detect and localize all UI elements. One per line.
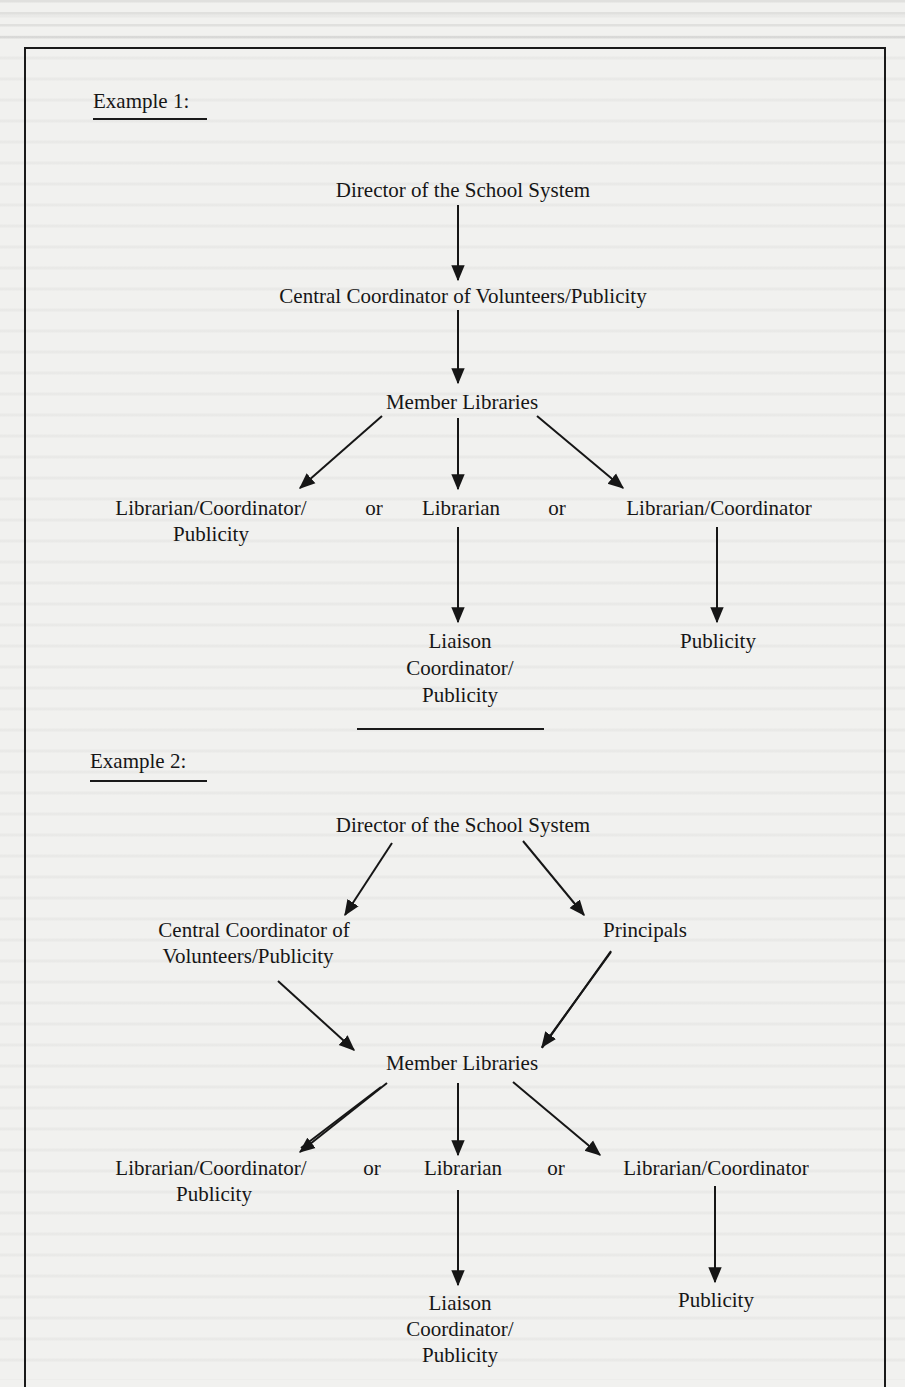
example2-node-publicity: Publicity [678,1288,754,1313]
example2-node-central-coordinator-line2: Volunteers/Publicity [162,944,333,969]
example2-node-liaison-line1: Liaison [429,1291,492,1316]
example1-node-publicity: Publicity [680,629,756,654]
example1-node-librarian-coordinator-publicity-line1: Librarian/Coordinator/ [115,496,306,521]
example2-node-librarian-coordinator: Librarian/Coordinator [623,1156,808,1181]
example1-heading-underline [93,118,207,120]
example2-or-2: or [547,1156,565,1181]
example1-node-director: Director of the School System [336,178,590,203]
example-separator-rule [357,728,544,730]
example1-node-liaison-line2: Coordinator/ [406,656,513,681]
example2-node-member-libraries: Member Libraries [386,1051,538,1076]
example1-heading: Example 1: [93,89,189,114]
example2-node-liaison-line3: Publicity [422,1343,498,1368]
example1-node-librarian: Librarian [422,496,500,521]
example2-node-librarian-coordinator-publicity-line1: Librarian/Coordinator/ [115,1156,306,1181]
example2-node-central-coordinator-line1: Central Coordinator of [158,918,349,943]
example2-node-liaison-line2: Coordinator/ [406,1317,513,1342]
example1-node-central-coordinator: Central Coordinator of Volunteers/Public… [279,284,646,309]
example2-heading: Example 2: [90,749,186,774]
example1-node-librarian-coordinator-publicity-line2: Publicity [173,522,249,547]
example2-or-1: or [363,1156,381,1181]
example1-node-liaison-line3: Publicity [422,683,498,708]
example2-node-librarian: Librarian [424,1156,502,1181]
example2-node-librarian-coordinator-publicity-line2: Publicity [176,1182,252,1207]
example1-or-1: or [365,496,383,521]
example2-node-director: Director of the School System [336,813,590,838]
example2-node-principals: Principals [603,918,687,943]
example2-heading-underline [90,780,207,782]
example1-or-2: or [548,496,566,521]
example1-node-member-libraries: Member Libraries [386,390,538,415]
example1-node-liaison-line1: Liaison [429,629,492,654]
example1-node-librarian-coordinator: Librarian/Coordinator [626,496,811,521]
